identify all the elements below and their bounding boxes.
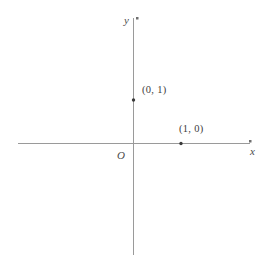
- y-axis-end-tick-icon: [136, 17, 139, 20]
- y-axis-label: y: [124, 15, 129, 26]
- axes-canvas: [0, 0, 271, 278]
- coordinate-plane-figure: y x O (0, 1) (1, 0): [0, 0, 271, 278]
- x-axis-end-tick-icon: [249, 140, 252, 143]
- x-axis-label: x: [250, 146, 255, 157]
- origin-label: O: [117, 150, 125, 161]
- point-marker-1-0: [179, 142, 182, 145]
- point-label-0-1: (0, 1): [142, 85, 167, 96]
- point-label-1-0: (1, 0): [179, 124, 204, 135]
- point-marker-0-1: [132, 98, 135, 101]
